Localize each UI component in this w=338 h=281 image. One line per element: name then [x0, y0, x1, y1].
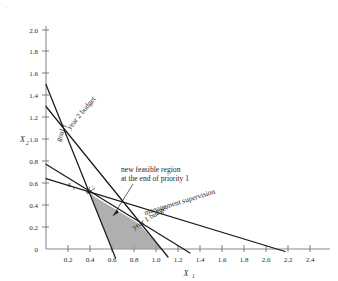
x-tick-2.4: 2.4: [306, 256, 315, 264]
x-tick-0.4: 0.4: [86, 256, 95, 264]
y-axis-label-sub: 2: [26, 140, 29, 146]
y-tick-0.2: 0.2: [29, 224, 38, 232]
annotation-line-1: new feasible region: [121, 165, 181, 174]
y-axis-label: X 2: [19, 135, 29, 146]
x-tick-1.8: 1.8: [240, 256, 249, 264]
origin-label: 0: [35, 246, 39, 254]
constraint-line-management-supervision: [46, 179, 285, 252]
x-tick-0.8: 0.8: [130, 256, 139, 264]
annotation-line-2: at the end of priority 1: [121, 174, 189, 183]
x-axis-label-sub: 1: [192, 273, 195, 279]
x-tick-1.6: 1.6: [218, 256, 227, 264]
y-tick-1.0: 1.0: [29, 136, 38, 144]
y-tick-1.2: 1.2: [29, 114, 38, 122]
y-tick-0.6: 0.6: [29, 180, 38, 188]
x-tick-0.2: 0.2: [64, 256, 73, 264]
x-tick-1.2: 1.2: [174, 256, 183, 264]
y-axis-label-text: X: [19, 135, 26, 144]
y-tick-0.8: 0.8: [29, 158, 38, 166]
goal-programming-chart: 0.2 0.4 0.6 0.8 1.0 1.2 1.4 1.6 1.8 2.0 …: [0, 0, 338, 281]
axes-group: [46, 26, 330, 249]
label-management-supervision-text: management supervision: [143, 187, 216, 217]
x-tick-2.0: 2.0: [262, 256, 271, 264]
y-tick-0.4: 0.4: [29, 202, 38, 210]
y-tick-labels: 0.2 0.4 0.6 0.8 1.0 1.2 1.4 1.6 1.8 2.0 …: [29, 27, 38, 254]
x-axis-label-text: X: [183, 269, 190, 278]
x-tick-1.0: 1.0: [152, 256, 161, 264]
symbol-d1-base: d: [86, 186, 90, 195]
x-axis-label: X 1: [183, 269, 195, 279]
symbol-d1-minus: d 1 −: [86, 184, 94, 197]
x-tick-2.2: 2.2: [284, 256, 293, 264]
symbol-s1-base: s: [68, 180, 71, 189]
symbol-d1-sup: −: [91, 184, 94, 189]
y-tick-1.6: 1.6: [29, 70, 38, 78]
y-tick-2.0: 2.0: [29, 27, 38, 35]
y-tick-1.8: 1.8: [29, 48, 38, 56]
y-tick-1.4: 1.4: [29, 92, 38, 100]
label-year-2-budget-text: year 2 budget: [65, 94, 98, 131]
label-year-2-budget: year 2 budget: [65, 94, 98, 131]
label-management-supervision: management supervision: [143, 187, 216, 217]
x-tick-labels: 0.2 0.4 0.6 0.8 1.0 1.2 1.4 1.6 1.8 2.0 …: [64, 256, 315, 264]
x-tick-1.4: 1.4: [196, 256, 205, 264]
scan-corner-mark: ': [6, 6, 7, 11]
symbol-s1-sub: 1: [73, 186, 76, 191]
